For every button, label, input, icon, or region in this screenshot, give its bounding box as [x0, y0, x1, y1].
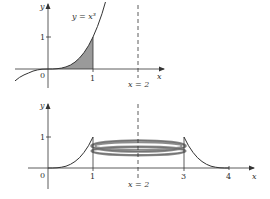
bottom-y-tick-label-1: 1 — [40, 133, 45, 142]
bottom-x-tick-label-1: 1 — [90, 172, 95, 181]
diagram-canvas: y y = x³ 1 0 1 x x = 2 — [0, 0, 270, 199]
top-x-tick-label-1: 1 — [90, 74, 95, 83]
top-origin-label: 0 — [40, 71, 45, 80]
shaded-region — [48, 37, 93, 69]
top-line-label: x = 2 — [128, 80, 149, 89]
washer-solid — [92, 141, 186, 156]
top-y-axis-label: y — [39, 2, 45, 11]
bottom-x-tick-label-3: 3 — [181, 172, 186, 181]
right-cubic-curve — [184, 137, 229, 168]
left-cubic-curve — [48, 137, 93, 168]
top-y-tick-label-1: 1 — [40, 33, 45, 42]
bottom-panel: y 1 0 1 3 4 x x = 2 — [28, 101, 257, 189]
bottom-x-axis-label: x — [252, 172, 257, 181]
bottom-origin-label: 0 — [40, 171, 45, 180]
bottom-line-label: x = 2 — [128, 180, 149, 189]
top-x-axis-label: x — [157, 72, 162, 81]
bottom-y-axis-label: y — [39, 101, 45, 110]
function-label: y = x³ — [71, 12, 96, 21]
bottom-x-tick-label-4: 4 — [226, 172, 231, 181]
top-panel: y y = x³ 1 0 1 x x = 2 — [15, 0, 164, 89]
